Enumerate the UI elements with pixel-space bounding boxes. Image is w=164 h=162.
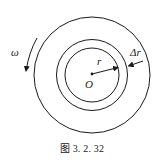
delta-r-label: Δr xyxy=(129,46,141,58)
delta-r-arrow xyxy=(129,61,144,66)
radius-arrow xyxy=(92,68,118,75)
diagram-canvas: ω r Δr O xyxy=(0,0,164,162)
diagram-figure: ω r Δr O 图 3. 2. 32 xyxy=(0,0,164,162)
omega-label: ω xyxy=(11,46,19,58)
rotation-arrow xyxy=(26,38,37,71)
center-label: O xyxy=(85,78,93,90)
figure-caption: 图 3. 2. 32 xyxy=(0,140,164,155)
radius-label: r xyxy=(97,55,102,67)
